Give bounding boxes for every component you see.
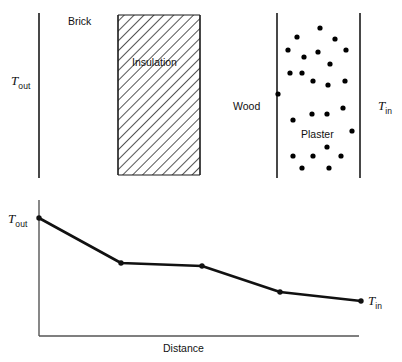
layer-label-brick: Brick bbox=[68, 16, 91, 27]
t-out-subscript-chart: out bbox=[15, 219, 27, 229]
insulation-block bbox=[118, 15, 200, 175]
t-in-subscript-diagram: in bbox=[385, 106, 392, 116]
temperature-data-points bbox=[36, 215, 363, 303]
t-in-label-diagram: Tin bbox=[378, 99, 392, 115]
thermal-wall-figure: Brick Insulation Wood Plaster Distance T… bbox=[0, 0, 402, 362]
wall-cross-section bbox=[39, 13, 360, 178]
t-out-label-diagram: Tout bbox=[11, 74, 31, 90]
layer-label-insulation: Insulation bbox=[132, 57, 177, 68]
temperature-profile-chart bbox=[36, 200, 363, 336]
chart-x-axis-label: Distance bbox=[163, 343, 204, 354]
temperature-curve bbox=[39, 218, 361, 301]
t-out-subscript-diagram: out bbox=[18, 81, 30, 91]
layer-label-wood: Wood bbox=[233, 101, 260, 112]
t-in-subscript-chart: in bbox=[375, 301, 382, 311]
t-in-label-chart: Tin bbox=[368, 294, 382, 310]
plaster-dots bbox=[275, 25, 354, 170]
t-out-label-chart: Tout bbox=[8, 212, 28, 228]
layer-label-plaster: Plaster bbox=[301, 129, 334, 140]
figure-canvas bbox=[0, 0, 402, 362]
